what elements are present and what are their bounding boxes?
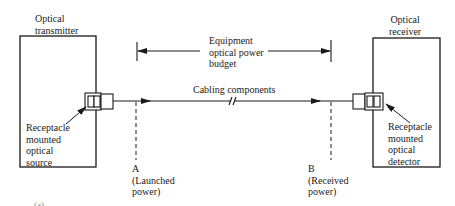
detector-label: Receptacle mounted optical detector [388, 121, 432, 167]
point-a-label: A (Launched power) [132, 163, 175, 198]
figure-label: (a) [34, 200, 44, 206]
cable-line [113, 97, 353, 105]
receiver-title: Optical receiver [389, 14, 421, 37]
cabling-label: Cabling components [193, 84, 276, 96]
transmitter-title: Optical transmitter [35, 13, 78, 36]
budget-label: Equipment optical power budget [207, 35, 266, 70]
transmitter-connector-icon [85, 93, 113, 110]
receiver-connector-icon [353, 93, 383, 110]
point-b-label: B (Received power) [308, 163, 349, 198]
source-label: Receptacle mounted optical source [26, 122, 70, 168]
